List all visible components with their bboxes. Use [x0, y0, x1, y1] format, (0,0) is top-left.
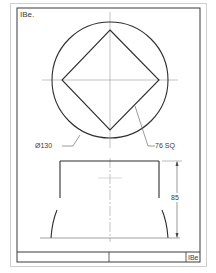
- technical-drawing-sheet: IBe IBe. Ø130 76 SQ: [0, 0, 216, 273]
- drawing-frame: [17, 8, 200, 262]
- sheet-label: IBe.: [20, 10, 34, 19]
- front-right-arc: [162, 210, 168, 238]
- front-view: 85: [40, 158, 184, 242]
- title-block-code: IBe: [188, 254, 199, 261]
- dim-arrow-bottom: [176, 233, 179, 238]
- top-view: Ø130 76 SQ: [35, 12, 178, 150]
- dim-arrow-top: [176, 161, 179, 166]
- circle-leader: [62, 135, 80, 146]
- square-size-label: 76 SQ: [155, 142, 175, 150]
- front-left-arc: [51, 210, 57, 238]
- title-block: IBe: [17, 252, 200, 262]
- circle-diameter-label: Ø130: [35, 142, 52, 149]
- height-dimension-label: 85: [171, 194, 179, 201]
